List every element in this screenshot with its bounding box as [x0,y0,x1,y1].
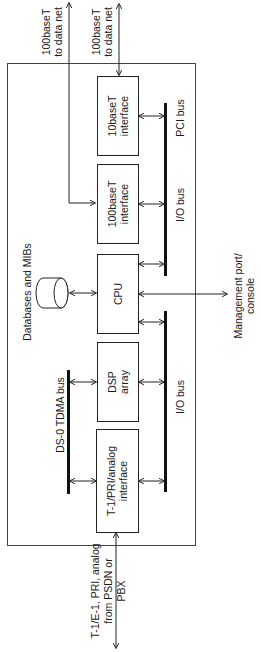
io-bus-lower [164,311,167,492]
tdma-bus-label: DS-0 TDMA bus [54,377,66,453]
tenbaset-interface-label: 10baseTinterface [106,96,130,137]
pci-bus-label: PCI bus [174,99,186,136]
net-right-label: 100baseTto data net [90,7,114,57]
t1-interface-label: T-1/PRI/analoginterface [105,446,129,516]
database-icon [36,278,68,308]
pci-bus [164,103,167,276]
database-label: Databases and MIBs [21,243,33,340]
cpu-label: CPU [112,283,124,305]
pstn-label: T-1/E-1, PRI, analogfrom PSDN orPBX [89,543,128,638]
dsp-array-label: DSParray [106,370,130,394]
tdma-bus [67,370,70,494]
management-port-label: Management port/console [232,253,256,338]
net-left-label: 100baseTto data net [40,7,64,57]
io-bus-upper-label: I/O bus [174,188,186,222]
hundredbaset-interface-label: 100baseTinterface [106,181,130,228]
io-bus-lower-label: I/O bus [174,380,186,414]
